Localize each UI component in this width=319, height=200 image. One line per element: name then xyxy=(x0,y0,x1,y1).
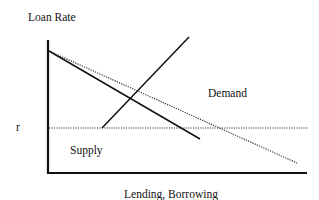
x-axis-label: Lending, Borrowing xyxy=(124,189,218,200)
rate-marker-label: r xyxy=(16,122,20,134)
diagram-graphic xyxy=(0,0,319,200)
supply-label: Supply xyxy=(70,145,103,157)
demand-curve-solid xyxy=(49,51,200,139)
y-axis-label: Loan Rate xyxy=(28,12,76,24)
loan-market-diagram: Loan Rate Demand r Supply Lending, Borro… xyxy=(0,0,319,200)
supply-curve-solid xyxy=(102,37,189,128)
demand-label: Demand xyxy=(208,88,247,100)
